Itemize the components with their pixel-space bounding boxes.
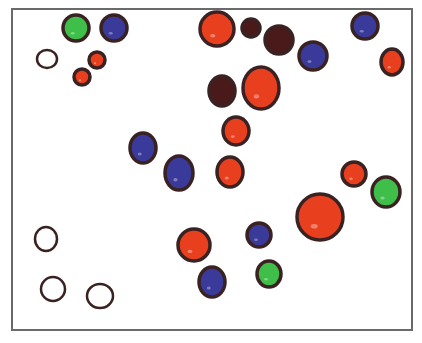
green-circle <box>63 15 89 41</box>
empty-circle <box>41 277 65 301</box>
maroon-circle <box>242 19 260 37</box>
circle-highlight <box>311 224 318 229</box>
circle-highlight <box>380 197 384 200</box>
blue-circle <box>352 13 378 39</box>
blue-circle <box>247 223 271 247</box>
circles-drawing <box>0 0 422 343</box>
circle-highlight <box>207 287 211 290</box>
circle-highlight <box>360 30 364 33</box>
green-circle <box>372 177 400 207</box>
circle-highlight <box>71 32 75 35</box>
blue-circle <box>165 156 193 190</box>
circle-highlight <box>188 250 193 253</box>
red-circle <box>217 157 243 187</box>
red-circle <box>200 12 234 46</box>
red-circle <box>178 229 210 261</box>
blue-circle <box>101 15 127 41</box>
red-circle <box>297 194 343 240</box>
circle-highlight <box>79 79 81 81</box>
blue-circle <box>130 133 156 163</box>
circle-highlight <box>225 177 229 180</box>
red-circle <box>243 67 279 109</box>
red-circle <box>381 49 403 75</box>
circle-highlight <box>210 34 215 37</box>
green-circle <box>257 261 281 287</box>
circle-highlight <box>349 178 353 180</box>
circle-highlight <box>231 135 235 138</box>
red-circle <box>89 52 105 68</box>
circle-highlight <box>307 60 311 63</box>
circle-highlight <box>254 94 259 98</box>
blue-circle <box>299 42 327 70</box>
red-circle <box>342 162 366 186</box>
empty-circle <box>87 284 113 308</box>
empty-circle <box>37 50 57 68</box>
blue-circle <box>199 267 225 297</box>
red-circle <box>74 69 90 85</box>
red-circle <box>223 117 249 145</box>
maroon-circle <box>209 76 235 106</box>
circle-highlight <box>264 278 268 281</box>
circle-highlight <box>94 62 96 64</box>
circle-highlight <box>173 178 177 181</box>
empty-circle <box>35 227 57 251</box>
circle-highlight <box>109 32 113 35</box>
circle-highlight <box>138 153 142 156</box>
circle-highlight <box>388 66 391 69</box>
maroon-circle <box>265 26 293 54</box>
circle-highlight <box>254 239 258 241</box>
